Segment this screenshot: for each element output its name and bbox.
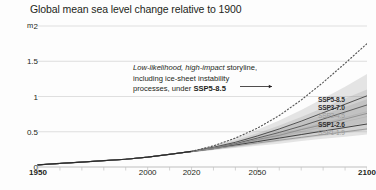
x-axis-tick-labels: 19502000202020502100 — [0, 168, 367, 184]
annotation-line2: including ice-sheet instability — [133, 74, 229, 83]
annotation-line3-rest: processes, under — [133, 84, 193, 93]
annotation-line1-rest: storyline, — [225, 63, 258, 72]
legend-item-ssp3-7.0[interactable]: SSP3-7.0 — [318, 104, 345, 112]
x-tick-2100: 2100 — [358, 168, 376, 177]
chart-legend: SSP5-8.5SSP3-7.0SSP2-4.5SSP1-2.6SSP1-1.9 — [318, 96, 345, 137]
x-tick-2020: 2020 — [183, 168, 201, 177]
legend-item-ssp5-8.5[interactable]: SSP5-8.5 — [318, 96, 345, 104]
x-tick-2000: 2000 — [139, 168, 157, 177]
storyline-annotation: Low-likelihood, high-impact storyline, i… — [133, 63, 288, 95]
annotation-line3-bold: SSP5-8.5 — [193, 84, 226, 93]
legend-item-ssp2-4.5[interactable]: SSP2-4.5 — [318, 112, 345, 120]
annotation-line1-italic: Low-likelihood, high-impact — [133, 63, 225, 72]
historical-line — [38, 151, 192, 164]
legend-item-ssp1-1.9[interactable]: SSP1-1.9 — [318, 129, 345, 137]
x-tick-2050: 2050 — [248, 168, 266, 177]
x-tick-1950: 1950 — [29, 168, 47, 177]
legend-item-ssp1-2.6[interactable]: SSP1-2.6 — [318, 121, 345, 129]
